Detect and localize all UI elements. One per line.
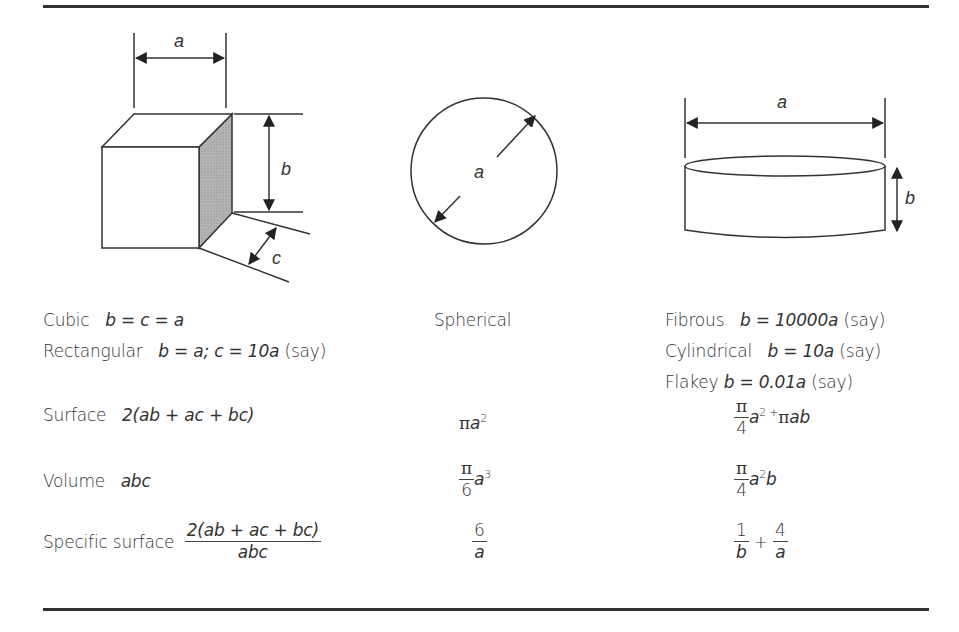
cubic-line: Cubic b = c = a xyxy=(43,310,184,330)
cube-label-b: b xyxy=(281,159,291,179)
rectangular-line: Rectangular b = a; c = 10a (say) xyxy=(43,341,326,361)
volume-cube-formula: abc xyxy=(121,471,151,491)
cylinder-label-a: a xyxy=(777,92,787,112)
surface-cylinder-formula: π4a2 +πab xyxy=(734,398,810,438)
specific-surface-sphere-formula: 6a xyxy=(472,522,487,562)
fibrous-line: Fibrous b = 10000a (say) xyxy=(665,310,885,330)
volume-row-label: Volume abc xyxy=(43,471,151,491)
cube-label-c: c xyxy=(272,248,281,268)
shapes-diagram: a b c a a b xyxy=(0,0,959,300)
rectangular-equation: b = a; c = 10 xyxy=(158,341,269,361)
surface-row-label: Surface 2(ab + ac + bc) xyxy=(43,405,254,425)
cylinder-diagram xyxy=(685,98,897,238)
cube-diagram xyxy=(102,33,310,282)
specific-surface-cube-formula: 2(ab + ac + bc)abc xyxy=(185,522,321,562)
cylinder-label-b: b xyxy=(905,188,915,208)
rectangular-say: (say) xyxy=(285,341,327,361)
rectangular-label: Rectangular xyxy=(43,341,143,361)
specific-surface-cylinder-formula: 1b + 4a xyxy=(734,522,788,562)
surface-cube-formula: 2(ab + ac + bc) xyxy=(122,405,254,425)
bottom-rule xyxy=(43,608,929,611)
volume-sphere-formula: π6a3 xyxy=(459,460,491,500)
sphere-label-a: a xyxy=(474,162,484,182)
cube-label-a: a xyxy=(174,31,184,51)
spherical-label: Spherical xyxy=(434,310,511,330)
cubic-label: Cubic xyxy=(43,310,90,330)
surface-sphere-formula: πa2 xyxy=(459,412,487,433)
flakey-line: Flakey b = 0.01a (say) xyxy=(665,372,853,392)
cylindrical-line: Cylindrical b = 10a (say) xyxy=(665,341,881,361)
volume-cylinder-formula: π4a2b xyxy=(734,460,777,500)
specific-surface-row: Specific surface 2(ab + ac + bc)abc xyxy=(43,522,321,562)
cubic-equation: b = c = a xyxy=(105,310,184,330)
